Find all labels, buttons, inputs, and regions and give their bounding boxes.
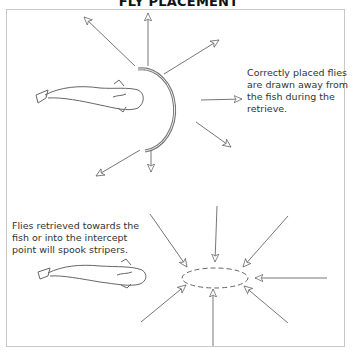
arrow-sw [96,150,140,176]
arrow-from-nw [150,214,187,267]
intercept-zone [182,268,248,288]
arrow-from-se [244,286,288,323]
arrow-from-sw [141,285,186,322]
arrow-nw [84,17,135,66]
arrow-ne [164,40,219,74]
arrow-from-ne [243,216,288,267]
top-diagram [36,13,242,176]
arrow-from-n [215,206,217,262]
outward-arrows [84,13,242,176]
top-caption: Correctly placed flies are drawn away fr… [247,67,352,115]
arrow-e [201,99,242,100]
fish-icon [38,259,146,288]
fish-icon [36,80,143,112]
arrow-se [196,122,231,147]
diagram-canvas [0,0,357,357]
inward-arrows [141,206,327,346]
intercept-arc [138,69,175,151]
bottom-caption: Flies retrieved towards the fish or into… [12,220,142,256]
